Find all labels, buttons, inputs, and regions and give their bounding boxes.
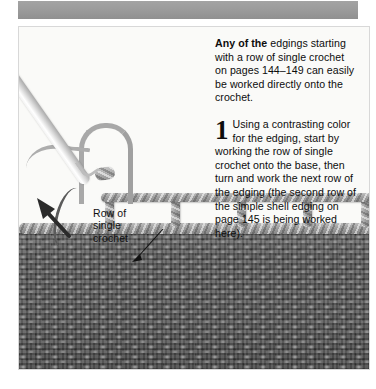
- direction-arrow-icon: [29, 195, 75, 239]
- step-number: 1: [215, 119, 229, 141]
- intro-lead-bold: Any of the: [215, 37, 267, 49]
- step-body: Using a contrasting color for the edging…: [215, 118, 359, 240]
- annotation-row-of-single-crochet: Row of single crochet: [93, 207, 128, 244]
- instruction-text-column: Any of the edgings starting with a row o…: [215, 37, 359, 240]
- intro-paragraph: Any of the edgings starting with a row o…: [215, 37, 359, 105]
- crochet-fabric: [19, 233, 369, 369]
- figure-panel: Row of single crochet Any of the edgings…: [18, 26, 370, 370]
- step-block: 1 Using a contrasting color for the edgi…: [215, 118, 359, 240]
- top-gray-banner: [18, 1, 358, 19]
- annotation-leader-line: [127, 227, 167, 263]
